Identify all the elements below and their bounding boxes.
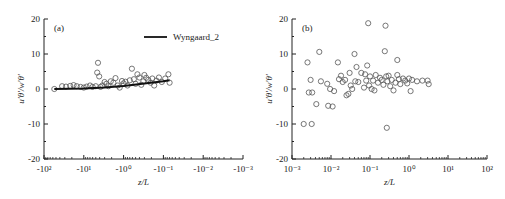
data-point-marker bbox=[328, 86, 333, 91]
y-tick-label: -10 bbox=[276, 119, 288, 129]
y-tick-label: 10 bbox=[31, 49, 41, 59]
data-point-marker bbox=[314, 102, 319, 107]
panel-label: (a) bbox=[54, 23, 64, 33]
y-tick-label: 20 bbox=[279, 14, 289, 24]
y-tick-label: 0 bbox=[36, 84, 41, 94]
data-point-marker bbox=[375, 80, 380, 85]
data-point-marker bbox=[391, 88, 396, 93]
data-point-marker bbox=[166, 72, 171, 77]
panel-a-chart: 20100-10-20-10²-10¹-10⁰-10⁻¹-10⁻²-10⁻³z/… bbox=[16, 14, 253, 187]
x-axis-title: z/L bbox=[383, 177, 395, 187]
y-axis-title: u'θ'/w'θ' bbox=[264, 73, 274, 104]
data-point-marker bbox=[410, 77, 415, 82]
data-point-marker bbox=[420, 78, 425, 83]
x-tick-label: -10⁻³ bbox=[233, 164, 253, 174]
data-point-marker bbox=[408, 89, 413, 94]
data-point-marker bbox=[317, 49, 322, 54]
data-point-marker bbox=[361, 85, 366, 90]
data-point-marker bbox=[395, 57, 400, 62]
y-axis-title: u'θ'/w'θ' bbox=[16, 73, 26, 104]
x-axis-title: z/L bbox=[137, 177, 149, 187]
data-point-marker bbox=[384, 125, 389, 130]
x-tick-label: 10⁻² bbox=[323, 164, 340, 174]
data-point-marker bbox=[305, 60, 310, 65]
panel-label: (b) bbox=[302, 23, 313, 33]
data-point-marker bbox=[425, 78, 430, 83]
data-point-marker bbox=[152, 83, 157, 88]
data-point-marker bbox=[129, 66, 134, 71]
data-point-marker bbox=[365, 63, 370, 68]
data-point-marker bbox=[414, 79, 419, 84]
x-tick-label: -10⁻² bbox=[193, 164, 213, 174]
x-tick-label: 10⁻³ bbox=[284, 164, 301, 174]
data-point-marker bbox=[332, 89, 337, 94]
legend-label: Wyngaard_2 bbox=[173, 32, 219, 42]
y-tick-label: 10 bbox=[279, 49, 289, 59]
x-tick-label: -10⁻¹ bbox=[154, 164, 174, 174]
panel-b-chart: 20100-10-2010⁻³10⁻²10⁻¹10⁰10¹10²z/Lu'θ'/… bbox=[264, 14, 493, 187]
data-point-marker bbox=[398, 82, 403, 87]
data-point-marker bbox=[347, 70, 352, 75]
y-tick-label: -10 bbox=[28, 119, 40, 129]
x-tick-label: -10⁰ bbox=[116, 164, 132, 174]
data-point-marker bbox=[318, 79, 323, 84]
data-point-marker bbox=[308, 77, 313, 82]
x-tick-label: 10² bbox=[481, 164, 493, 174]
data-point-marker bbox=[367, 83, 372, 88]
data-point-marker bbox=[382, 49, 387, 54]
y-tick-label: 20 bbox=[31, 14, 41, 24]
data-point-marker bbox=[301, 121, 306, 126]
data-point-marker bbox=[366, 21, 371, 26]
data-point-marker bbox=[309, 121, 314, 126]
x-tick-label: 10¹ bbox=[442, 164, 454, 174]
data-point-marker bbox=[95, 60, 100, 65]
x-tick-label: -10² bbox=[37, 164, 52, 174]
data-point-marker bbox=[354, 64, 359, 69]
data-point-marker bbox=[71, 83, 76, 88]
data-point-marker bbox=[113, 76, 118, 81]
data-point-marker bbox=[364, 78, 369, 83]
data-point-marker bbox=[426, 82, 431, 87]
data-point-marker bbox=[352, 51, 357, 56]
data-point-marker bbox=[371, 78, 376, 83]
figure: 20100-10-20-10²-10¹-10⁰-10⁻¹-10⁻²-10⁻³z/… bbox=[0, 0, 505, 199]
data-point-marker bbox=[310, 90, 315, 95]
data-point-marker bbox=[356, 79, 361, 84]
data-point-marker bbox=[325, 81, 330, 86]
x-tick-label: 10⁰ bbox=[403, 164, 416, 174]
y-tick-label: -20 bbox=[276, 154, 288, 164]
x-tick-label: -10¹ bbox=[76, 164, 91, 174]
data-point-marker bbox=[335, 60, 340, 65]
y-tick-label: -20 bbox=[28, 154, 40, 164]
x-tick-label: 10⁻¹ bbox=[362, 164, 379, 174]
data-point-marker bbox=[383, 23, 388, 28]
y-tick-label: 0 bbox=[284, 84, 289, 94]
